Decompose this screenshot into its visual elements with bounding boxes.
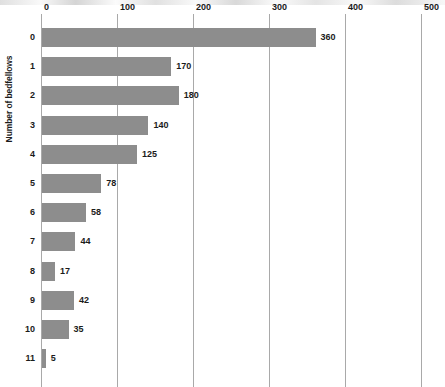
bar-11[interactable] <box>42 349 46 368</box>
gridline-300 <box>269 14 270 387</box>
x-tick-label-500: 500 <box>421 2 439 12</box>
bar-2[interactable] <box>42 86 179 105</box>
bar-value-label-1: 170 <box>176 57 191 76</box>
x-tick-label-200: 200 <box>193 2 211 12</box>
category-label-10: 10 <box>25 320 35 339</box>
bar-1[interactable] <box>42 57 171 76</box>
category-label-7: 7 <box>30 232 35 251</box>
bar-value-label-5: 78 <box>106 174 116 193</box>
y-axis-title: Number of bedfellows <box>0 14 18 184</box>
bar-3[interactable] <box>42 116 148 135</box>
x-tick-label-400: 400 <box>345 2 363 12</box>
bar-5[interactable] <box>42 174 101 193</box>
bar-value-label-9: 42 <box>79 291 89 310</box>
category-label-6: 6 <box>30 203 35 222</box>
bar-7[interactable] <box>42 232 75 251</box>
bar-value-label-6: 58 <box>91 203 101 222</box>
bar-value-label-8: 17 <box>60 262 70 281</box>
scan-noise-artifact <box>0 0 445 5</box>
bar-4[interactable] <box>42 145 137 164</box>
category-label-8: 8 <box>30 262 35 281</box>
bar-0[interactable] <box>42 28 316 47</box>
bar-value-label-11: 5 <box>51 349 56 368</box>
category-label-1: 1 <box>30 57 35 76</box>
gridline-200 <box>193 14 194 387</box>
bar-value-label-3: 140 <box>153 116 168 135</box>
gridline-500 <box>421 14 422 387</box>
category-label-4: 4 <box>30 145 35 164</box>
x-tick-label-100: 100 <box>117 2 135 12</box>
bar-value-label-4: 125 <box>142 145 157 164</box>
bar-value-label-10: 35 <box>74 320 84 339</box>
gridline-400 <box>345 14 346 387</box>
chart-page: Number of bedfellows 0100200300400500 03… <box>0 0 445 387</box>
category-label-3: 3 <box>30 116 35 135</box>
bar-10[interactable] <box>42 320 69 339</box>
x-tick-label-300: 300 <box>269 2 287 12</box>
bar-6[interactable] <box>42 203 86 222</box>
category-label-11: 11 <box>25 349 35 368</box>
bar-value-label-0: 360 <box>321 28 336 47</box>
category-label-9: 9 <box>30 291 35 310</box>
plot-area: 0100200300400500 03601170218031404125578… <box>41 14 445 387</box>
bar-8[interactable] <box>42 262 55 281</box>
category-label-5: 5 <box>30 174 35 193</box>
x-tick-label-0: 0 <box>41 2 49 12</box>
bar-9[interactable] <box>42 291 74 310</box>
bar-value-label-2: 180 <box>184 86 199 105</box>
y-axis-title-label: Number of bedfellows <box>4 56 14 143</box>
category-label-0: 0 <box>30 28 35 47</box>
category-label-2: 2 <box>30 86 35 105</box>
bar-value-label-7: 44 <box>80 232 90 251</box>
